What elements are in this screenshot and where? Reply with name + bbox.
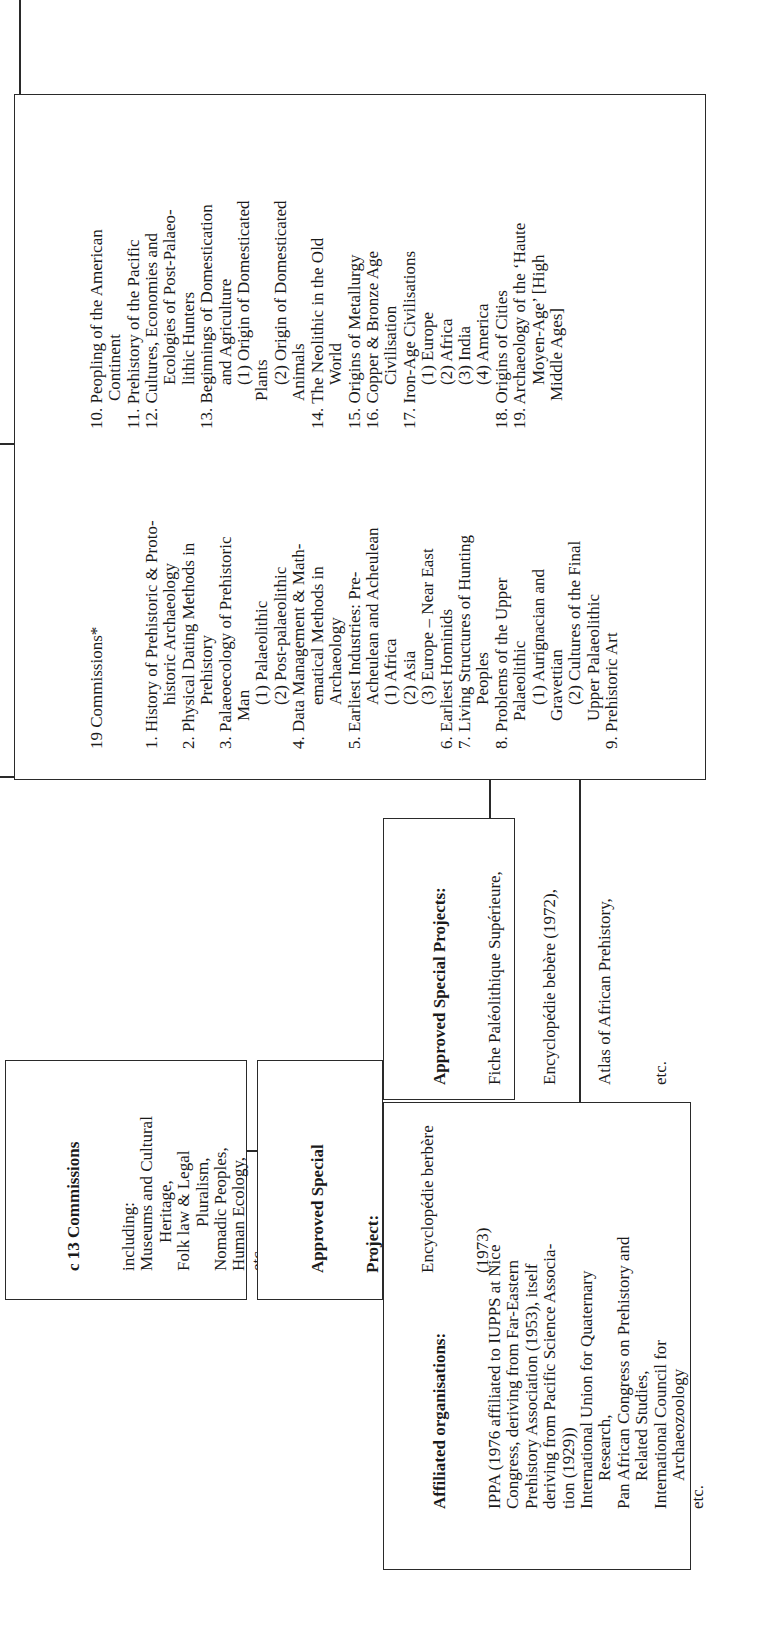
list-item: 4. Data Management & Math-	[290, 419, 308, 749]
list-item: (2) Cultures of the Final	[566, 419, 584, 749]
list-item: Related Studies,	[633, 1237, 651, 1509]
list-item: etc.	[689, 1237, 707, 1509]
list-item: 10. Peopling of the American	[88, 99, 106, 429]
list-item: Acheulean and Acheulean	[364, 419, 382, 749]
list-item: (2) Africa	[438, 99, 456, 429]
list-item: Heritage,	[157, 1116, 175, 1271]
approved-special-project-heading-2: Project:	[364, 1125, 382, 1273]
list-item: Pan African Congress on Prehistory and	[615, 1237, 633, 1509]
list-item: (2) Origin of Domesticated	[272, 99, 290, 429]
list-item: 2. Physical Dating Methods in	[180, 419, 198, 749]
list-item: Peoples	[474, 419, 492, 749]
list-item: IPPA (1976 affiliated to IUPPS at Nice	[486, 1237, 504, 1509]
list-item: deriving from Pacific Science Associa-	[541, 1237, 559, 1509]
approved-special-project-heading-1: Approved Special	[309, 1125, 327, 1273]
list-item: (1) Aurignacian and	[530, 419, 548, 749]
list-item: Human Ecology,	[230, 1116, 248, 1271]
commissions-left-column: 19 Commissions* 1. History of Prehistori…	[51, 419, 658, 749]
approved-special-projects-text: Approved Special Projects: Fiche Paléoli…	[394, 871, 707, 1085]
list-item: Folk law & Legal	[175, 1116, 193, 1271]
list-item: 1. History of Prehistoric & Proto-	[143, 419, 161, 749]
approved-special-projects-box: Approved Special Projects: Fiche Paléoli…	[383, 818, 515, 1100]
affiliated-organisations-text: Affiliated organisations: IPPA (1976 aff…	[394, 1237, 744, 1509]
list-item: (4) America	[474, 99, 492, 429]
list-item: Animals	[290, 99, 308, 429]
list-item: (1) Origin of Domesticated	[235, 99, 253, 429]
project-line: Encyclopédie bebère (1972),	[541, 871, 559, 1085]
list-item: Ecologies of Post-Palaeo-	[161, 99, 179, 429]
list-item: (1) Africa	[382, 419, 400, 749]
list-item: historic Archaeology	[161, 419, 179, 749]
connector-to-projects	[489, 778, 491, 818]
list-item: Civilisation	[382, 99, 400, 429]
list-item: including:	[120, 1116, 138, 1271]
project-line: (1973)	[474, 1125, 492, 1273]
affiliated-organisations-heading: Affiliated organisations:	[431, 1237, 449, 1509]
list-item: tion (1929))	[560, 1237, 578, 1509]
commissions-box: 19 Commissions* 1. History of Prehistori…	[14, 94, 706, 780]
list-item: Prehistory	[198, 419, 216, 749]
approved-special-project-box: Approved Special Project: Encyclopédie b…	[257, 1060, 383, 1300]
list-item: Moyen-Age’ [High	[530, 99, 548, 429]
approved-special-project-text: Approved Special Project: Encyclopédie b…	[272, 1125, 530, 1273]
project-line: etc.	[652, 871, 670, 1085]
affiliated-organisations-list: IPPA (1976 affiliated to IUPPS at NiceCo…	[486, 1237, 707, 1509]
org-chart-canvas: 19 Commissions* 1. History of Prehistori…	[0, 0, 760, 1640]
list-item: 17. Iron-Age Civilisations	[401, 99, 419, 429]
list-item: 5. Earliest Industries: Pre-	[346, 419, 364, 749]
list-item: 13. Beginnings of Domestication	[198, 99, 216, 429]
list-item: Upper Palaeolithic	[585, 419, 603, 749]
list-item: Nomadic Peoples,	[212, 1116, 230, 1271]
list-item: 18. Origins of Cities	[493, 99, 511, 429]
list-item: Pluralism,	[194, 1116, 212, 1271]
list-item: 14. The Neolithic in the Old	[309, 99, 327, 429]
list-item: (2) Asia	[401, 419, 419, 749]
list-item: 16. Copper & Bronze Age	[364, 99, 382, 429]
list-item: Museums and Cultural	[138, 1116, 156, 1271]
commissions-right-column: 10. Peopling of the AmericanContinent11.…	[51, 99, 603, 429]
list-item: Plants	[253, 99, 271, 429]
list-item: Archaeozoology	[670, 1237, 688, 1509]
project-line: Atlas of African Prehistory,	[596, 871, 614, 1085]
list-item: Research,	[596, 1237, 614, 1509]
list-item: 12. Cultures, Economies and	[143, 99, 161, 429]
list-item: International Council for	[652, 1237, 670, 1509]
list-item: 3. Palaeoecology of Prehistoric	[217, 419, 235, 749]
approved-special-projects-heading: Approved Special Projects:	[431, 871, 449, 1085]
list-item: 15. Origins of Metallurgy	[346, 99, 364, 429]
list-item: (1) Palaeolithic	[253, 419, 271, 749]
list-item: Archaeology	[327, 419, 345, 749]
c13-commissions-heading: c 13 Commissions	[65, 1116, 83, 1271]
commissions-heading: 19 Commissions*	[88, 419, 106, 749]
list-item: lithic Hunters	[180, 99, 198, 429]
list-item: 9. Prehistoric Art	[603, 419, 621, 749]
c13-commissions-box: c 13 Commissions including:Museums and C…	[5, 1060, 247, 1300]
list-item: (3) India	[456, 99, 474, 429]
list-item: Congress, deriving from Far-Eastern	[504, 1237, 522, 1509]
list-item: Continent	[106, 99, 124, 429]
list-item: and Agriculture	[217, 99, 235, 429]
list-item: 8. Problems of the Upper	[493, 419, 511, 749]
list-item: 7. Living Structures of Hunting	[456, 419, 474, 749]
c13-commissions-list: including:Museums and CulturalHeritage,F…	[120, 1116, 267, 1271]
connector-left-stub	[0, 777, 14, 779]
project-line: Encyclopédie berbère	[419, 1125, 437, 1273]
list-item: World	[327, 99, 345, 429]
list-item: Middle Ages]	[548, 99, 566, 429]
list-item: (3) Europe – Near East	[419, 419, 437, 749]
list-item: 19. Archaeology of the ‘Haute	[511, 99, 529, 429]
list-item: (1) Europe	[419, 99, 437, 429]
commission-list-10-19: 10. Peopling of the AmericanContinent11.…	[88, 99, 567, 429]
list-item: 11. Prehistory of the Pacific	[125, 99, 143, 429]
list-item: Gravettian	[548, 419, 566, 749]
list-item: ematical Methods in	[309, 419, 327, 749]
commission-list-1-9: 1. History of Prehistoric & Proto-histor…	[143, 419, 622, 749]
list-item: 6. Earliest Hominids	[438, 419, 456, 749]
list-item: International Union for Quaternary	[578, 1237, 596, 1509]
list-item: (2) Post-palaeolithic	[272, 419, 290, 749]
list-item: Palaeolithic	[511, 419, 529, 749]
list-item: Man	[235, 419, 253, 749]
project-line: Fiche Paléolithique Supérieure,	[486, 871, 504, 1085]
list-item: Prehistory Association (1953), itself	[523, 1237, 541, 1509]
